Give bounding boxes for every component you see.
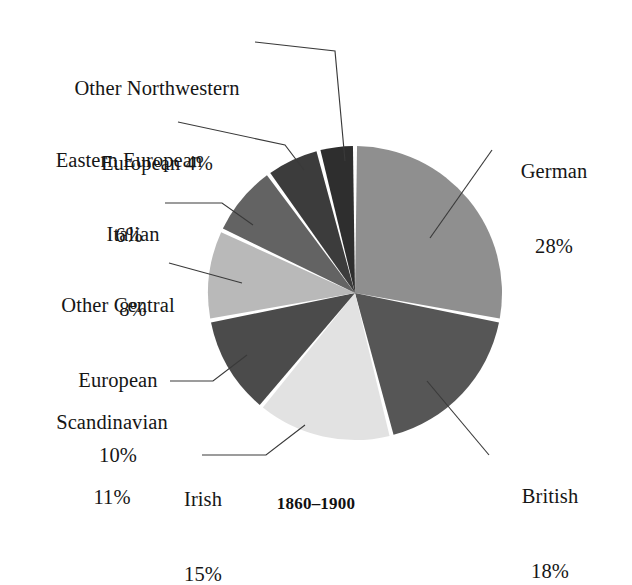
slice-label-line: 28% — [494, 234, 614, 259]
chart-caption: 1860–1900 — [0, 494, 632, 514]
pie-slice-german[interactable] — [355, 146, 502, 319]
slice-label-line: 15% — [148, 562, 258, 585]
slice-label-german: German 28% — [494, 109, 614, 309]
slice-label-line: Other Central — [18, 293, 218, 318]
slice-label-line: 18% — [490, 559, 610, 584]
slice-label-line: Scandinavian — [12, 410, 212, 435]
slice-label-line: German — [494, 159, 614, 184]
slice-label-line: Eastern European — [14, 148, 244, 173]
